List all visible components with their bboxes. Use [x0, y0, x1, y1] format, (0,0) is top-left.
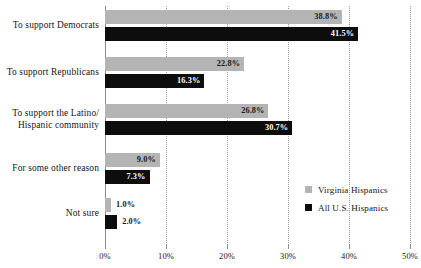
bar-value-label: 1.0% — [116, 198, 135, 212]
legend-swatch-icon — [305, 204, 312, 211]
category-label: For some other reason — [12, 163, 99, 175]
tick-mark — [288, 245, 289, 249]
bar-value-label: 2.0% — [122, 215, 141, 229]
category-label: To support Republicans — [7, 67, 99, 79]
bar-value-label: 26.8% — [241, 104, 264, 118]
category-label: To support Democrats — [13, 20, 99, 32]
legend-item-all-us-hispanics: All U.S. Hispanics — [305, 200, 388, 215]
x-tick-label: 10% — [158, 251, 174, 261]
bar-value-label: 41.5% — [331, 27, 354, 41]
tick-mark — [105, 245, 106, 249]
bar-rect — [105, 27, 358, 41]
chart-legend: Virginia Hispanics All U.S. Hispanics — [305, 182, 388, 218]
tick-mark — [410, 245, 411, 249]
x-tick-label: 0% — [99, 251, 111, 261]
legend-item-virginia-hispanics: Virginia Hispanics — [305, 182, 388, 197]
category-label: To support the Latino/ Hispanic communit… — [12, 108, 99, 131]
bar: 26.8% — [105, 104, 268, 118]
bar: 22.8% — [105, 57, 244, 71]
x-tick-label: 20% — [219, 251, 235, 261]
bar-value-label: 7.3% — [126, 170, 145, 184]
bar-value-label: 16.3% — [177, 74, 200, 88]
bar: 7.3% — [105, 170, 150, 184]
bar: 38.8% — [105, 10, 342, 24]
category-label: Not sure — [66, 208, 99, 220]
tick-mark — [227, 245, 228, 249]
bar: 9.0% — [105, 153, 160, 167]
tick-mark — [349, 245, 350, 249]
x-tick-label: 30% — [280, 251, 296, 261]
legend-label: Virginia Hispanics — [318, 185, 388, 195]
tick-mark — [166, 245, 167, 249]
bar-value-label: 30.7% — [265, 121, 288, 135]
x-tick-label: 40% — [341, 251, 357, 261]
grouped-bar-chart: 0%10%20%30%40%50% To support DemocratsTo… — [0, 0, 421, 268]
bar: 2.0% — [105, 215, 117, 229]
bar-value-label: 9.0% — [137, 153, 156, 167]
gridline — [410, 6, 411, 245]
bar-value-label: 22.8% — [217, 57, 240, 71]
bar: 41.5% — [105, 27, 358, 41]
bar-rect — [105, 215, 117, 229]
x-tick-label: 50% — [402, 251, 418, 261]
bar-rect — [105, 198, 111, 212]
bar: 16.3% — [105, 74, 204, 88]
bar: 30.7% — [105, 121, 292, 135]
bar-rect — [105, 10, 342, 24]
bar-value-label: 38.8% — [314, 10, 337, 24]
legend-swatch-icon — [305, 186, 312, 193]
legend-label: All U.S. Hispanics — [318, 203, 388, 213]
bar: 1.0% — [105, 198, 111, 212]
